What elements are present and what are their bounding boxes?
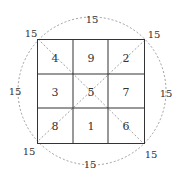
sum-label-bottom: 15: [84, 159, 97, 170]
cell-r0c0: 4: [52, 52, 59, 65]
cell-r2c0: 8: [52, 120, 59, 133]
cell-r2c1: 1: [88, 120, 95, 133]
cell-r2c2: 6: [123, 120, 130, 133]
magic-square-diagram: 4 9 2 3 5 7 8 1 6 15 15 15 15 15 15 15 1…: [0, 0, 184, 180]
cell-r0c2: 2: [123, 52, 130, 65]
sum-label-top-left: 15: [25, 28, 38, 39]
cell-r1c2: 7: [123, 86, 130, 99]
cell-r0c1: 9: [88, 52, 95, 65]
sum-label-top-right: 15: [148, 29, 161, 40]
cell-r1c0: 3: [52, 86, 59, 99]
sum-label-left: 15: [9, 86, 22, 97]
sum-label-right: 15: [160, 88, 173, 99]
sum-label-bottom-left: 15: [23, 146, 36, 157]
diagram-canvas: 4 9 2 3 5 7 8 1 6 15 15 15 15 15 15 15 1…: [0, 0, 184, 180]
sum-label-bottom-right: 15: [145, 149, 158, 160]
sum-label-top: 15: [86, 14, 99, 25]
cell-r1c1: 5: [88, 86, 95, 99]
